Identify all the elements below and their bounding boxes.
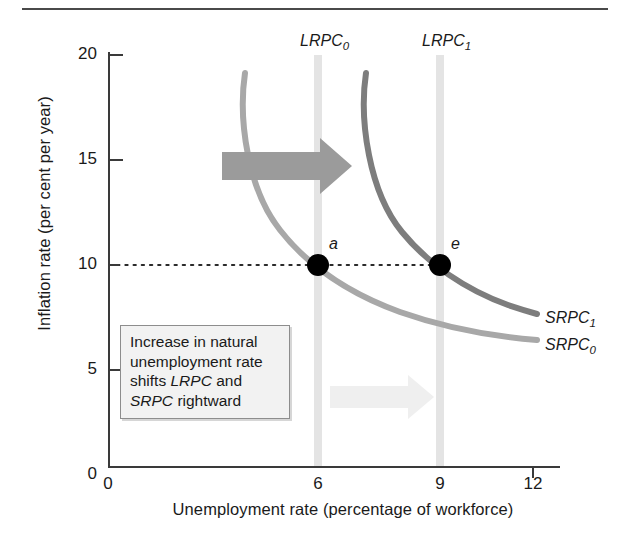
srpc1-label-subscript: 1 <box>589 317 595 329</box>
y-axis-title: Inflation rate (per cent per year) <box>35 49 54 379</box>
y-tick-label-5: 5 <box>57 359 97 379</box>
y-tick-label-20: 20 <box>57 44 97 64</box>
srpc0-label-subscript: 0 <box>589 344 595 356</box>
note-line-1: Increase in natural <box>130 332 281 352</box>
srpc1-label-text: SRPC <box>545 309 589 326</box>
y-tick-label-15: 15 <box>57 149 97 169</box>
y-tick-label-10: 10 <box>57 254 97 274</box>
point-e-marker <box>429 254 451 276</box>
lrpc0-label-text: LRPC <box>300 32 343 49</box>
x-axis-title: Unemployment rate (percentage of workfor… <box>108 500 578 519</box>
shift-arrow-light <box>330 375 434 419</box>
shift-arrow-dark <box>222 138 352 194</box>
note-line-2: unemployment rate <box>130 352 281 372</box>
srpc1-curve <box>364 73 537 314</box>
x-tick-label-0: 0 <box>88 474 128 494</box>
phillips-curve-figure: Inflation rate (per cent per year) Unemp… <box>0 0 626 546</box>
x-tick-label-9: 9 <box>420 474 460 494</box>
lrpc0-label-subscript: 0 <box>343 40 349 52</box>
x-tick-label-12: 12 <box>513 474 553 494</box>
point-a-label: a <box>329 235 338 253</box>
note-line-3-prefix: shifts <box>130 372 170 389</box>
note-line-3-emphasis: LRPC <box>170 372 211 389</box>
lrpc1-label: LRPC1 <box>422 32 471 52</box>
srpc1-label: SRPC1 <box>545 309 596 329</box>
lrpc1-label-text: LRPC <box>422 32 465 49</box>
note-line-3: shifts LRPC and <box>130 371 281 391</box>
note-line-4-suffix: rightward <box>173 392 241 409</box>
point-e-label: e <box>451 235 460 253</box>
srpc0-label: SRPC0 <box>545 336 596 356</box>
x-tick-label-6: 6 <box>298 474 338 494</box>
point-a-marker <box>307 254 329 276</box>
note-line-4: SRPC rightward <box>130 391 281 411</box>
lrpc1-label-subscript: 1 <box>465 40 471 52</box>
lrpc0-label: LRPC0 <box>300 32 349 52</box>
srpc0-label-text: SRPC <box>545 336 589 353</box>
note-line-3-suffix: and <box>212 372 242 389</box>
note-line-4-emphasis: SRPC <box>130 392 173 409</box>
annotation-note-box: Increase in natural unemployment rate sh… <box>120 325 290 419</box>
